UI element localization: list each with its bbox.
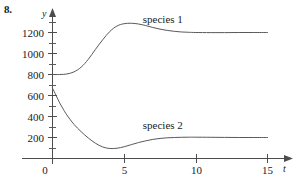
y-tick-label-800: 800	[28, 69, 45, 81]
y-tick-label-400: 400	[28, 111, 45, 123]
x-tick-label-5: 5	[122, 164, 128, 176]
y-tick-label-1000: 1000	[22, 48, 45, 60]
x-axis-variable-label: t	[283, 163, 286, 174]
y-axis-variable-label: y	[41, 8, 47, 19]
x-tick-label-0: 0	[42, 164, 48, 176]
x-tick-label-10: 10	[191, 164, 203, 176]
curve-species-1	[53, 23, 268, 74]
series-label-species-2: species 2	[143, 119, 183, 131]
x-axis-arrowhead	[284, 155, 293, 162]
series-label-species-1: species 1	[143, 13, 183, 25]
y-tick-label-1200: 1200	[22, 27, 45, 39]
population-curves-plot: y t 1200 1000 800 600 400 200 0 5 10 15	[0, 0, 297, 184]
figure-container: 8. y t 1200 1000 800 600 4	[0, 0, 297, 184]
x-tick-label-15: 15	[262, 164, 274, 176]
y-tick-label-600: 600	[28, 90, 45, 102]
y-tick-label-200: 200	[28, 132, 45, 144]
y-axis-arrowhead	[49, 8, 56, 17]
